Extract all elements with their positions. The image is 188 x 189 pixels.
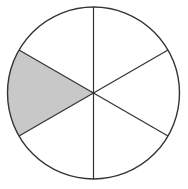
sector-divider-line [94,93,168,136]
shaded-sector [7,50,93,136]
sectors-group [7,50,93,136]
sector-divider-line [94,50,168,93]
fraction-circle-svg [0,0,188,189]
fraction-circle-diagram [0,0,188,189]
